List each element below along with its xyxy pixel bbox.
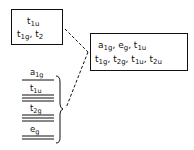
level-label-t2g: t2g (30, 103, 42, 113)
level-label-a1g: a1g (30, 67, 43, 77)
level-label-eg: eg (30, 124, 39, 134)
level-label-t1u: t1u (30, 83, 42, 93)
